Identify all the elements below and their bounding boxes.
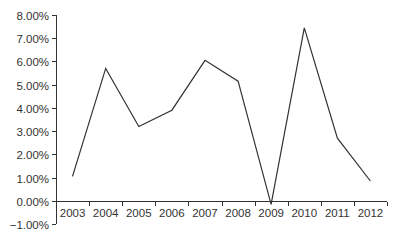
y-tick-label: 3.00% bbox=[16, 126, 49, 138]
x-axis: 2003200420052006200720082009201020112012 bbox=[56, 202, 388, 219]
series-group bbox=[72, 28, 370, 205]
y-tick-label: 4.00% bbox=[16, 103, 49, 115]
x-tick-label: 2011 bbox=[325, 207, 350, 219]
y-tick-label: −1.00% bbox=[10, 219, 49, 231]
y-tick-label: 7.00% bbox=[16, 33, 49, 45]
y-tick-label: 6.00% bbox=[16, 56, 49, 68]
x-tick-label: 2008 bbox=[225, 207, 251, 219]
y-tick-label: 0.00% bbox=[16, 196, 49, 208]
x-tick-label: 2012 bbox=[358, 207, 384, 219]
x-tick-label: 2009 bbox=[258, 207, 284, 219]
series-line bbox=[73, 28, 371, 205]
y-tick-label: 8.00% bbox=[16, 10, 49, 22]
y-tick-label: 2.00% bbox=[16, 149, 49, 161]
x-tick-label: 2003 bbox=[60, 207, 86, 219]
x-tick-label: 2007 bbox=[192, 207, 218, 219]
y-tick-label: 1.00% bbox=[16, 173, 49, 185]
x-tick-label: 2005 bbox=[126, 207, 152, 219]
x-tick-label: 2006 bbox=[159, 207, 185, 219]
y-tick-label: 5.00% bbox=[16, 80, 49, 92]
line-chart: 8.00%7.00%6.00%5.00%4.00%3.00%2.00%1.00%… bbox=[0, 0, 402, 242]
x-tick-label: 2004 bbox=[93, 207, 119, 219]
x-tick-label: 2010 bbox=[291, 207, 317, 219]
y-axis: 8.00%7.00%6.00%5.00%4.00%3.00%2.00%1.00%… bbox=[10, 10, 57, 231]
